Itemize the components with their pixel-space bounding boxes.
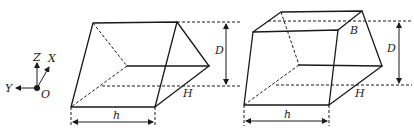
label-H: H (354, 87, 365, 100)
hidden-edge-bottom (244, 65, 299, 105)
origin-point (34, 85, 40, 91)
label-h: h (113, 109, 120, 122)
y-axis-label: Y (5, 82, 14, 95)
label-H: H (182, 87, 193, 100)
edge-back-right (362, 11, 382, 66)
model-left: D H h (71, 22, 240, 127)
diagram-canvas: Z X Y O D H h (0, 0, 414, 138)
z-axis-label: Z (32, 51, 41, 64)
label-D: D (214, 44, 224, 57)
origin-label: O (41, 88, 50, 101)
front-face (71, 22, 177, 107)
x-axis-label: X (47, 52, 57, 65)
coordinate-axes: Z X Y O (5, 51, 57, 101)
edge-top-right (177, 22, 209, 66)
label-h: h (284, 108, 291, 121)
x-axis (37, 67, 49, 88)
edge-middle (299, 65, 382, 66)
hidden-edge-top (281, 12, 299, 65)
hidden-edge-top (93, 23, 127, 66)
model-right: B D H h (244, 11, 412, 126)
label-D: D (386, 42, 396, 55)
label-B: B (349, 24, 358, 37)
